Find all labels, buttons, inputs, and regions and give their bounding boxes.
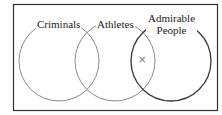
- criminals-label: Criminals: [36, 19, 81, 30]
- athletes-label-text: Athletes: [97, 18, 134, 30]
- venn-diagram: Criminals Athletes Admirable People ×: [0, 0, 222, 115]
- admirable-label-line2: People: [148, 24, 195, 36]
- athletes-label: Athletes: [96, 19, 135, 30]
- admirable-people-label: Admirable People: [146, 12, 197, 36]
- x-marker-symbol: ×: [138, 54, 146, 65]
- x-marker-icon: ×: [138, 55, 146, 65]
- admirable-label-line1: Admirable: [148, 12, 195, 24]
- criminals-label-text: Criminals: [37, 18, 80, 30]
